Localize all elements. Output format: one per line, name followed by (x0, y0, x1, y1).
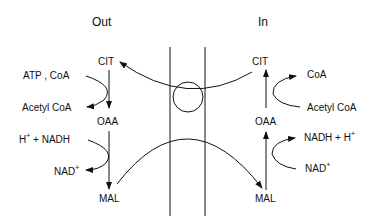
transporter-circle (173, 82, 203, 112)
out-acetylcoa-curve-arrow (86, 76, 107, 107)
citrate-malate-shuttle-diagram: Out In CIT OAA MAL ATP , CoA Acetyl CoA … (0, 0, 383, 224)
in-reactant-nad: NAD+ (305, 161, 330, 174)
in-header: In (258, 15, 268, 29)
out-product-acetyl-coa: Acetyl CoA (22, 102, 72, 113)
in-coa-curve-arrow (273, 76, 300, 107)
out-product-nad: NAD+ (54, 164, 79, 177)
out-header: Out (92, 15, 112, 29)
out-mal-label: MAL (99, 193, 120, 204)
malate-import-arrow (117, 139, 262, 188)
in-reactant-acetyl-coa: Acetyl CoA (307, 102, 357, 113)
in-product-coa: CoA (307, 69, 327, 80)
citrate-export-arrow (120, 62, 252, 89)
out-reactant-atp-coa: ATP , CoA (23, 70, 70, 81)
in-oaa-label: OAA (255, 116, 276, 127)
out-oaa-label: OAA (97, 116, 118, 127)
out-cit-label: CIT (98, 56, 114, 67)
in-product-nadh-h: NADH + H+ (304, 130, 355, 143)
out-nad-curve-arrow (86, 140, 109, 170)
in-nadh-curve-arrow (272, 138, 296, 169)
out-reactant-h-nadh: H+ + NADH (19, 132, 70, 145)
in-cit-label: CIT (252, 56, 268, 67)
in-mal-label: MAL (255, 193, 276, 204)
